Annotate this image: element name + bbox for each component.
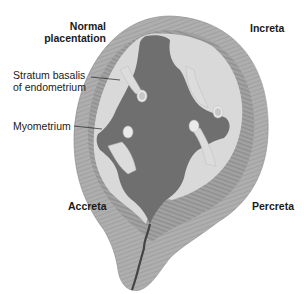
label-accreta: Accreta [68, 200, 107, 212]
label-normal-line2: placentation [40, 32, 106, 44]
label-stratum-line1: Stratum basalis [13, 69, 86, 81]
label-normal-line1: Normal [40, 20, 106, 32]
uterus-illustration [0, 0, 304, 294]
label-stratum-basalis: Stratum basalis of endometrium [13, 69, 86, 93]
label-myometrium: Myometrium [13, 120, 71, 132]
label-increta: Increta [250, 22, 284, 34]
uterus-diagram: Normal placentation Increta Stratum basa… [0, 0, 304, 294]
label-normal-placentation: Normal placentation [40, 20, 106, 44]
label-percreta: Percreta [252, 200, 294, 212]
label-stratum-line2: of endometrium [13, 81, 86, 93]
